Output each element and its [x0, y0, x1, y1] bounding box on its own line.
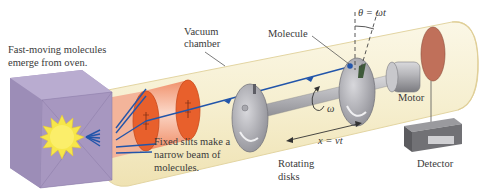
distance-label: x = vt — [318, 135, 343, 147]
molecule-dot — [347, 63, 353, 69]
detector-box — [404, 118, 462, 152]
disks-label-line2: disks — [278, 171, 300, 183]
detector-label: Detector — [417, 158, 453, 170]
motor — [386, 62, 420, 92]
theta-label: θ = ωt — [358, 7, 386, 19]
disks-label-line1: Rotating — [278, 158, 314, 170]
slits-label-line2: narrow beam of — [154, 149, 220, 161]
oven-label-line2: emerge from oven. — [8, 57, 87, 69]
omega-label: ω — [327, 103, 334, 115]
rotating-disk-2 — [339, 58, 375, 126]
motor-label: Motor — [398, 92, 424, 104]
slits-label-line3: molecules. — [154, 162, 199, 174]
oven-label-line1: Fast-moving molecules — [8, 44, 106, 56]
molecule-label: Molecule — [268, 28, 308, 40]
vacuum-label-line1: Vacuum — [184, 26, 218, 38]
vacuum-label-line2: chamber — [184, 38, 220, 50]
slits-label-line1: Fixed slits make a — [154, 136, 230, 148]
rotating-disk-1 — [232, 84, 268, 152]
apparatus-diagram: Fast-moving molecules emerge from oven. … — [0, 0, 484, 195]
